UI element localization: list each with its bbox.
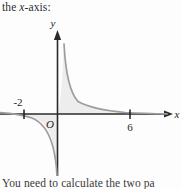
figure-page: the x-axis: -2 6 (0, 0, 182, 189)
caption-text-after: -axis: (25, 1, 51, 13)
graph-figure: -2 6 y x O (0, 14, 182, 176)
x-axis-label: x (174, 108, 180, 120)
caption-below-figure: You need to calculate the two pa (2, 177, 155, 189)
x-tick-label-minus-2: -2 (13, 96, 22, 108)
caption-above-figure: the x-axis: (2, 1, 51, 14)
caption-text-before: the (2, 1, 19, 13)
origin-label: O (46, 118, 54, 130)
y-axis-label: y (50, 17, 56, 29)
y-axis-arrow-icon (54, 30, 61, 40)
x-tick-label-6: 6 (127, 121, 133, 133)
shaded-region-right (58, 52, 166, 114)
